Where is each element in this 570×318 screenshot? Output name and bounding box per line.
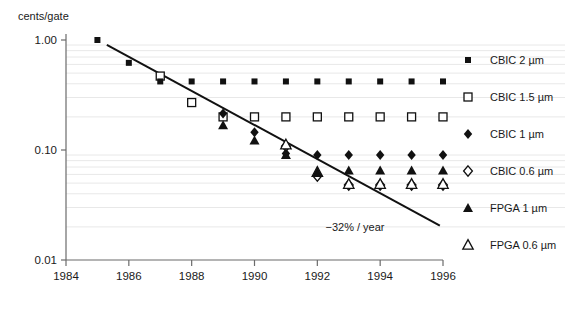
data-point — [346, 78, 352, 84]
y-axis-title: cents/gate — [18, 10, 69, 22]
y-axis-ticks: 1.000.100.01 — [35, 34, 66, 266]
y-tick-label: 0.10 — [35, 144, 57, 156]
data-point — [218, 120, 228, 129]
x-tick-label: 1986 — [116, 270, 142, 282]
data-point — [312, 167, 322, 176]
legend-label: CBIC 1 µm — [490, 128, 544, 140]
legend-marker-open-triangle — [463, 240, 473, 250]
data-point — [345, 113, 353, 121]
legend-marker-filled-diamond — [464, 129, 472, 139]
data-point — [408, 113, 416, 121]
legend-item-cbic-1-5-m[interactable]: CBIC 1.5 µm — [464, 91, 553, 103]
legend-marker-open-square — [464, 93, 472, 101]
series-cbic-1-5-m — [156, 72, 447, 121]
data-point — [282, 113, 290, 121]
series-fpga-0-6-m — [281, 139, 448, 188]
data-point — [377, 78, 383, 84]
data-point — [439, 150, 447, 160]
data-point — [126, 60, 132, 66]
legend-label: CBIC 2 µm — [490, 54, 544, 66]
x-tick-label: 1992 — [305, 270, 331, 282]
series-cbic-2-m — [94, 37, 446, 84]
legend-item-fpga-0-6-m[interactable]: FPGA 0.6 µm — [463, 239, 556, 251]
x-tick-label: 1990 — [242, 270, 268, 282]
chart-svg: 1.000.100.011984198619881990199219941996… — [0, 0, 570, 318]
data-point — [252, 78, 258, 84]
data-point — [250, 136, 260, 145]
legend-label: FPGA 1 µm — [490, 202, 547, 214]
data-point — [313, 113, 321, 121]
data-point — [439, 113, 447, 121]
legend-label: CBIC 0.6 µm — [490, 165, 553, 177]
data-point — [283, 78, 289, 84]
data-point — [409, 78, 415, 84]
legend-item-cbic-1-m[interactable]: CBIC 1 µm — [464, 128, 544, 140]
data-point — [376, 150, 384, 160]
data-point — [407, 150, 415, 160]
axes — [66, 34, 443, 260]
x-tick-label: 1996 — [430, 270, 456, 282]
y-tick-label: 1.00 — [35, 34, 57, 46]
y-tick-label: 0.01 — [35, 254, 57, 266]
x-tick-label: 1984 — [53, 270, 79, 282]
data-point — [376, 113, 384, 121]
chart-container: 1.000.100.011984198619881990199219941996… — [0, 0, 570, 318]
data-point — [345, 150, 353, 160]
data-point — [220, 78, 226, 84]
data-point — [157, 78, 163, 84]
data-point — [188, 99, 196, 107]
legend-marker-filled-square — [465, 57, 471, 63]
x-tick-label: 1988 — [179, 270, 205, 282]
data-point — [314, 78, 320, 84]
legend-label: FPGA 0.6 µm — [490, 239, 556, 251]
data-point — [440, 78, 446, 84]
trendline-annotation: −32% / year — [326, 221, 385, 233]
legend-label: CBIC 1.5 µm — [490, 91, 553, 103]
data-point — [189, 78, 195, 84]
data-point — [94, 37, 100, 43]
data-point — [251, 113, 259, 121]
x-axis-ticks: 1984198619881990199219941996 — [53, 260, 456, 282]
x-tick-label: 1994 — [367, 270, 393, 282]
